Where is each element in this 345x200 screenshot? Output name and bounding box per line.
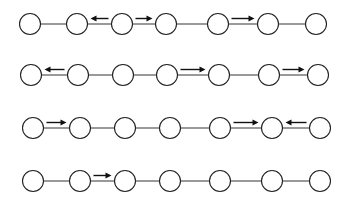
arrow-right-icon [232,16,255,22]
chain-row-3 [23,118,331,139]
rows-layer [20,14,331,192]
node-circle [20,14,41,35]
node-circle [23,118,44,139]
node-circle [157,65,178,86]
arrow-right-icon [136,16,153,22]
arrow-right-icon [283,67,305,73]
chain-row-1 [20,14,327,35]
node-circle [310,171,331,192]
node-circle [306,14,327,35]
node-circle [160,171,181,192]
node-circle [113,65,134,86]
arrow-left-icon [286,120,307,126]
node-circle [210,171,231,192]
chain-row-4 [23,171,331,192]
node-circle [308,65,329,86]
node-circle [310,118,331,139]
node-circle [23,171,44,192]
node-circle [259,65,280,86]
node-circle [262,118,283,139]
arrow-left-icon [91,16,109,22]
chain-diagram [0,0,345,200]
node-circle [115,171,136,192]
node-circle [209,65,230,86]
node-circle [208,14,229,35]
node-circle [210,118,231,139]
chain-row-2 [21,65,329,86]
node-circle [70,118,91,139]
arrow-right-icon [47,120,67,126]
node-circle [258,14,279,35]
arrow-right-icon [181,67,206,73]
node-circle [115,118,136,139]
node-circle [112,14,133,35]
node-circle [70,171,91,192]
arrow-right-icon [234,120,259,126]
node-circle [21,65,42,86]
node-circle [68,65,89,86]
arrow-right-icon [94,173,112,179]
arrow-left-icon [45,67,65,73]
node-circle [262,171,283,192]
node-circle [160,118,181,139]
node-circle [67,14,88,35]
node-circle [156,14,177,35]
